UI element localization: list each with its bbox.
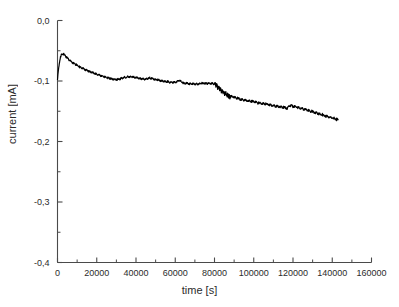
x-tick-label: 20000 — [84, 268, 109, 278]
y-tick-label: 0,0 — [0, 16, 50, 26]
axis-ticks — [58, 21, 372, 263]
x-tick-label: 100000 — [239, 268, 269, 278]
data-series-lines — [58, 53, 339, 120]
y-tick-label: -0,4 — [0, 258, 50, 268]
x-tick-label: 0 — [55, 268, 60, 278]
chart-container: 0,0-0,1-0,2-0,3-0,4020000400006000080000… — [0, 0, 399, 307]
x-tick-label: 60000 — [163, 268, 188, 278]
x-tick-label: 120000 — [278, 268, 308, 278]
y-tick-label: -0,3 — [0, 197, 50, 207]
x-tick-label: 140000 — [317, 268, 347, 278]
y-axis-title: current [mA] — [6, 84, 20, 144]
axes — [58, 21, 372, 263]
x-axis-title: time [s] — [0, 284, 399, 296]
x-tick-label: 80000 — [202, 268, 227, 278]
x-tick-label: 160000 — [356, 268, 386, 278]
x-tick-label: 40000 — [123, 268, 148, 278]
plot-area — [0, 0, 399, 307]
